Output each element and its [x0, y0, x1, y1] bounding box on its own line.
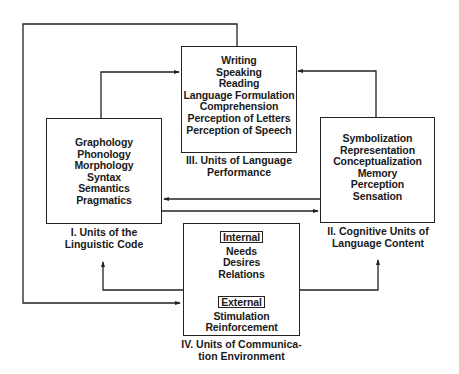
internal-section: Internal Needs Desires Relations [184, 231, 299, 280]
linguistic-code-list: Graphology Phonology Morphology Syntax S… [47, 137, 161, 207]
internal-label: Internal [220, 231, 263, 243]
language-performance-box: Writing Speaking Reading Language Formul… [181, 46, 297, 153]
list-item: Graphology [47, 137, 161, 149]
environment-to-code-arrow [103, 262, 183, 290]
communication-environment-caption: IV. Units of Communica- tion Environment [176, 339, 307, 362]
list-item: Pragmatics [47, 195, 161, 207]
linguistic-code-box: Graphology Phonology Morphology Syntax S… [46, 118, 162, 224]
communication-environment-box: Internal Needs Desires Relations Externa… [183, 223, 300, 336]
caption-line: Language Content [316, 238, 440, 250]
language-performance-list: Writing Speaking Reading Language Formul… [182, 55, 296, 136]
caption-line: Linguistic Code [46, 239, 162, 251]
list-item: Writing [182, 55, 296, 67]
caption-line: IV. Units of Communica- [176, 339, 307, 351]
caption-line: tion Environment [176, 351, 307, 363]
content-to-performance-arrow [298, 71, 376, 117]
external-section: External Stimulation Reinforcement [184, 296, 299, 334]
list-item: Perception of Letters [182, 113, 296, 125]
language-content-box: Symbolization Representation Conceptuali… [320, 117, 435, 223]
language-content-caption: II. Cognitive Units of Language Content [316, 226, 440, 249]
list-item: Sensation [321, 191, 434, 203]
linguistic-code-caption: I. Units of the Linguistic Code [46, 227, 162, 250]
external-label: External [218, 296, 265, 308]
list-item: Reinforcement [184, 322, 299, 334]
caption-line: Performance [175, 167, 303, 179]
caption-line: I. Units of the [46, 227, 162, 239]
code-to-performance-arrow [101, 72, 179, 118]
caption-line: II. Cognitive Units of [316, 226, 440, 238]
list-item: Perception of Speech [182, 125, 296, 137]
language-performance-caption: III. Units of Language Performance [175, 155, 303, 178]
environment-to-content-arrow [299, 260, 378, 290]
language-content-list: Symbolization Representation Conceptuali… [321, 133, 434, 203]
caption-line: III. Units of Language [175, 155, 303, 167]
list-item: Symbolization [321, 133, 434, 145]
list-item: Relations [184, 269, 299, 281]
